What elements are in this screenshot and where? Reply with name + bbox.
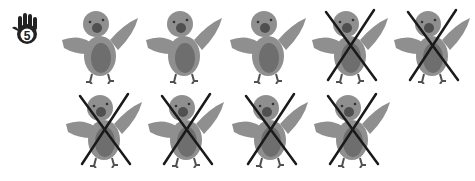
- bird: [226, 4, 310, 84]
- bird-crossed-out: [310, 88, 394, 168]
- bird-icon: [144, 88, 228, 168]
- exercise-number: 5: [10, 12, 44, 46]
- bird-icon: [390, 4, 474, 84]
- bird-icon: [310, 88, 394, 168]
- bird-icon: [58, 4, 142, 84]
- exercise-number-text: 5: [24, 29, 31, 43]
- bird-icon: [226, 4, 310, 84]
- bird: [142, 4, 226, 84]
- bird-crossed-out: [228, 88, 312, 168]
- bird-icon: [62, 88, 146, 168]
- bird: [58, 4, 142, 84]
- bird-icon: [308, 4, 392, 84]
- bird-crossed-out: [308, 4, 392, 84]
- bird-crossed-out: [144, 88, 228, 168]
- bird-icon: [228, 88, 312, 168]
- hand-five-icon: 5: [10, 12, 44, 46]
- bird-crossed-out: [390, 4, 474, 84]
- bird-icon: [142, 4, 226, 84]
- bird-crossed-out: [62, 88, 146, 168]
